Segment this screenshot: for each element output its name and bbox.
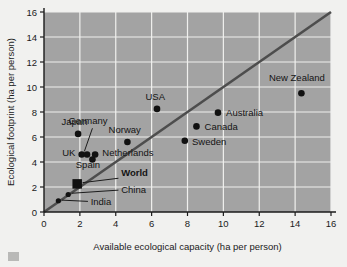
data-point-spain[interactable]: Spain [76, 156, 100, 169]
point-label-netherlands: Netherlands [102, 147, 153, 158]
y-tick-label: 16 [26, 7, 37, 18]
x-tick-label: 12 [254, 218, 265, 229]
marker-circle[interactable] [124, 139, 131, 146]
y-tick-label: 2 [32, 182, 37, 193]
scatter-chart: 02468101214160246810121416Available ecol… [0, 0, 347, 267]
point-label-china: China [121, 184, 147, 195]
point-label-spain: Spain [76, 159, 100, 170]
point-label-japan: Japan [62, 116, 88, 127]
x-tick-label: 14 [290, 218, 301, 229]
point-label-new-zealand: New Zealand [269, 72, 325, 83]
y-tick-label: 8 [32, 107, 37, 118]
point-label-uk: UK [62, 147, 76, 158]
figure-container: 02468101214160246810121416Available ecol… [0, 0, 347, 267]
y-tick-label: 10 [26, 82, 37, 93]
x-tick-label: 2 [77, 218, 82, 229]
marker-square[interactable] [72, 179, 82, 189]
y-tick-label: 6 [32, 132, 37, 143]
marker-circle[interactable] [75, 131, 82, 138]
point-label-norway: Norway [109, 124, 141, 135]
x-tick-label: 8 [185, 218, 190, 229]
marker-circle[interactable] [193, 123, 200, 130]
y-tick-label: 4 [32, 157, 37, 168]
x-tick-label: 16 [326, 218, 337, 229]
x-axis-title: Available ecological capacity (ha per pe… [93, 241, 281, 252]
x-tick-label: 6 [149, 218, 154, 229]
x-tick-label: 4 [113, 218, 118, 229]
marker-circle[interactable] [154, 106, 161, 113]
marker-circle[interactable] [92, 151, 99, 158]
x-tick-label: 0 [41, 218, 46, 229]
y-tick-label: 0 [32, 207, 37, 218]
point-label-canada: Canada [205, 121, 239, 132]
marker-circle[interactable] [215, 109, 222, 116]
marker-circle[interactable] [84, 151, 91, 158]
caption-mark [8, 252, 19, 261]
marker-circle[interactable] [66, 192, 71, 197]
y-tick-label: 12 [26, 57, 37, 68]
point-label-australia: Australia [226, 107, 264, 118]
point-label-world: World [121, 167, 148, 178]
marker-circle[interactable] [182, 137, 189, 144]
x-tick-label: 10 [218, 218, 229, 229]
y-axis-title: Ecological footprint (ha per person) [5, 38, 16, 186]
point-label-usa: USA [145, 91, 165, 102]
y-tick-label: 14 [26, 32, 37, 43]
marker-circle[interactable] [298, 90, 305, 97]
point-label-sweden: Sweden [192, 136, 226, 147]
point-label-india: India [91, 196, 112, 207]
marker-circle[interactable] [56, 198, 61, 203]
